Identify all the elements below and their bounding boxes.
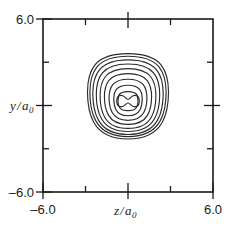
y-axis-ticks — [36, 19, 52, 192]
y-axis-title-subscript: 0 — [29, 105, 34, 115]
y-axis-title-var: y — [8, 98, 16, 113]
plot-canvas: 6.0 –6.0 –6.0 6.0 y / a 0 z / a 0 — [0, 0, 236, 230]
y-axis-min-label: –6.0 — [9, 185, 34, 200]
x-axis-title-var: z — [113, 203, 119, 218]
contour-lines — [88, 54, 169, 139]
contour-level-6 — [100, 69, 156, 129]
contour-level-2 — [118, 92, 138, 111]
x-axis-ticks — [43, 183, 213, 199]
x-axis-max-label: 6.0 — [204, 202, 222, 217]
x-axis-min-label: –6.0 — [30, 202, 55, 217]
x-axis-title-subscript: 0 — [132, 210, 137, 220]
y-axis-title: y / a 0 — [8, 98, 34, 115]
x-axis-title: z / a 0 — [113, 203, 137, 220]
y-axis-right-ticks — [204, 62, 220, 149]
y-axis-title-unit: a — [22, 98, 29, 113]
x-axis-title-unit: a — [125, 203, 132, 218]
plot-frame — [43, 19, 213, 192]
y-axis-max-label: 6.0 — [16, 12, 34, 27]
x-axis-top-ticks — [86, 12, 171, 28]
contour-level-1-dumbbell — [117, 95, 140, 106]
contour-level-8 — [93, 60, 163, 135]
axes-frame — [43, 19, 213, 192]
contour-plot-figure: 6.0 –6.0 –6.0 6.0 y / a 0 z / a 0 — [0, 0, 236, 230]
